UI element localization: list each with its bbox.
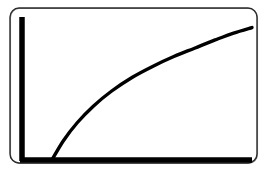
chart-svg — [0, 0, 270, 172]
chart-background — [0, 0, 270, 172]
figure-container — [0, 0, 270, 172]
